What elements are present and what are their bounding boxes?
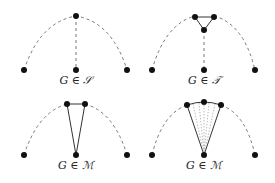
node (218, 102, 224, 108)
panel-triangle (149, 14, 258, 73)
solid-edge (67, 104, 76, 155)
node (64, 101, 70, 107)
panel-star (21, 13, 130, 73)
dashed-arc (24, 104, 67, 155)
node (82, 101, 88, 107)
dashed-arc (85, 104, 127, 155)
node (192, 14, 198, 20)
dashed-arc (214, 16, 255, 70)
panel-m-two (21, 101, 130, 158)
dotted-edge (193, 104, 204, 155)
panel-label-m-two: G ∈ ℳ (58, 159, 94, 172)
dashed-arc (152, 16, 195, 70)
dashed-arc (221, 105, 255, 155)
dotted-edge (204, 104, 215, 155)
panel-label-star: G ∈ 𝒮 (60, 74, 93, 87)
panel-label-triangle: G ∈ 𝒯 (188, 74, 220, 87)
node (149, 152, 155, 158)
node (124, 152, 130, 158)
node (73, 67, 79, 73)
node (73, 13, 79, 19)
node (201, 27, 207, 33)
node (73, 152, 79, 158)
node (201, 67, 207, 73)
diagram-canvas (0, 0, 275, 183)
node (184, 102, 190, 108)
panel-m-multi (149, 99, 258, 158)
node (21, 152, 27, 158)
node (252, 67, 258, 73)
node (252, 152, 258, 158)
node (124, 67, 130, 73)
panel-label-m-multi: G ∈ ℳ (186, 159, 222, 172)
node (21, 67, 27, 73)
dashed-arc (152, 105, 187, 155)
node (201, 99, 207, 105)
node (211, 14, 217, 20)
node (149, 67, 155, 73)
node (201, 152, 207, 158)
solid-edge (76, 104, 85, 155)
